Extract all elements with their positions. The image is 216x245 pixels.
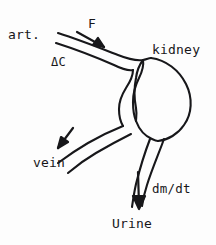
kidney-label: kidney xyxy=(152,42,200,57)
urine-label: Urine xyxy=(112,216,152,231)
artery-vessel xyxy=(56,33,151,70)
kidney-diagram: art. F ΔC kidney vein dm/dt Urine xyxy=(0,0,216,245)
artery-label: art. xyxy=(8,27,40,42)
flow-label: F xyxy=(88,16,96,31)
vein-arrow xyxy=(58,128,73,148)
vein-label: vein xyxy=(33,155,65,170)
mass-rate-label: dm/dt xyxy=(152,181,191,196)
delta-c-label: ΔC xyxy=(51,55,66,69)
